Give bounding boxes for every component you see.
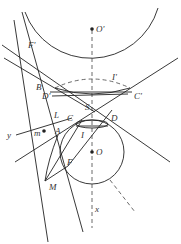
label-A: A — [54, 126, 61, 136]
label-D: D — [110, 113, 118, 123]
label-x: x — [94, 204, 99, 214]
line-M-F — [45, 166, 68, 181]
label-F-prime: F' — [27, 40, 36, 50]
label-O-prime: O' — [96, 24, 105, 34]
geometry-diagram: O' F' I' B D' C' S L C D y m A I O F M x — [0, 0, 181, 244]
cone-line-3 — [4, 58, 95, 112]
label-D-prime: D' — [41, 91, 51, 101]
upper-tangent-circle-front — [55, 88, 130, 94]
label-C-prime: C' — [134, 91, 143, 101]
upper-tangent-circle-back — [55, 79, 130, 88]
label-O: O — [96, 147, 103, 157]
upper-sphere-arc — [25, 8, 158, 58]
line-tangent-I — [68, 110, 112, 166]
line-M-C — [45, 120, 82, 181]
point-O — [90, 150, 94, 154]
label-M: M — [48, 182, 57, 192]
lower-dashed-line — [110, 180, 135, 212]
label-y: y — [6, 130, 11, 140]
point-O-prime — [90, 27, 94, 31]
label-m: m — [34, 128, 41, 138]
label-F: F — [66, 157, 73, 167]
point-m — [42, 129, 46, 133]
label-L: L — [53, 110, 59, 120]
label-C: C — [67, 113, 74, 123]
label-I-prime: I' — [111, 72, 118, 82]
label-S: S — [85, 102, 90, 112]
label-I: I — [80, 130, 85, 140]
